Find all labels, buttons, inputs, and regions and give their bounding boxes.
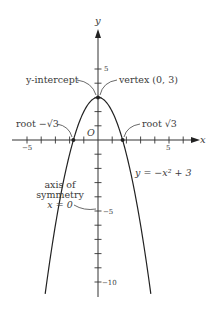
axis-symmetry-annotation-line3: x = 0 bbox=[47, 199, 72, 210]
parabola-chart: x −5 5 y 5 −5 −10 O y-intercept vertex (… bbox=[0, 0, 210, 313]
equation-label: y = −x² + 3 bbox=[134, 167, 192, 178]
root-pos-point bbox=[121, 138, 125, 142]
root-neg-leader bbox=[57, 124, 72, 137]
root-neg-point bbox=[71, 138, 75, 142]
y-tick-label-5: 5 bbox=[104, 65, 108, 73]
y-axis-arrow-icon bbox=[95, 29, 101, 38]
x-axis: x −5 5 bbox=[12, 134, 206, 152]
y-intercept-annotation: y-intercept bbox=[25, 74, 79, 85]
vertex-point bbox=[96, 95, 100, 99]
root-pos-leader bbox=[124, 124, 140, 137]
y-tick-label-neg5: −5 bbox=[103, 208, 113, 216]
origin-label: O bbox=[87, 127, 95, 138]
root-neg-annotation: root −√3 bbox=[16, 118, 59, 129]
vertex-leader bbox=[100, 80, 117, 95]
x-tick-label-neg5: −5 bbox=[22, 144, 32, 152]
x-axis-arrow-icon bbox=[191, 137, 200, 143]
root-pos-annotation: root √3 bbox=[142, 118, 177, 129]
y-intercept-leader bbox=[77, 80, 96, 95]
y-tick-label-neg10: −10 bbox=[102, 279, 117, 287]
y-axis-label: y bbox=[94, 15, 101, 26]
axis-symmetry-leader bbox=[74, 205, 96, 210]
x-tick-label-5: 5 bbox=[166, 144, 170, 152]
x-axis-label: x bbox=[200, 134, 206, 145]
vertex-annotation: vertex (0, 3) bbox=[118, 74, 178, 85]
y-axis: y 5 −5 −10 bbox=[94, 15, 117, 297]
